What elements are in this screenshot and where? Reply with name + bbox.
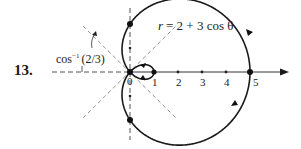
direction-arrow-upper-icon <box>246 29 253 36</box>
equation-rhs: = 2 + 3 cos θ <box>166 18 233 33</box>
axis-arrow-icon <box>280 69 289 76</box>
polar-graph: cos−1(2/3) r = 2 + 3 cos θ 0 1 2 3 4 5 <box>0 0 301 149</box>
tick-label-5: 5 <box>253 76 259 88</box>
tick-4 <box>225 71 228 74</box>
point-r5 <box>247 69 253 75</box>
tick-2 <box>177 71 180 74</box>
tick-3 <box>201 71 204 74</box>
angle-arc-arrow-icon <box>92 31 97 36</box>
point-inner-loop <box>151 69 156 74</box>
direction-arrow-lower-icon <box>231 100 238 106</box>
tick-label-3: 3 <box>200 76 206 88</box>
direction-arrow-inner-top-icon <box>140 63 146 68</box>
problem-number: 13. <box>14 62 33 79</box>
point-top <box>127 21 133 27</box>
origin-label: 0 <box>127 75 133 87</box>
tick-label-4: 4 <box>224 76 230 88</box>
tick-label-1: 1 <box>152 76 158 88</box>
point-bottom <box>127 117 133 123</box>
equation-lhs: r <box>158 18 164 33</box>
tick-label-2: 2 <box>176 76 182 88</box>
vertical-tick-up <box>129 47 132 50</box>
vertical-tick-down <box>129 95 132 98</box>
angle-label: cos−1(2/3) <box>56 52 105 66</box>
limacon-figure: 13. <box>0 0 301 149</box>
